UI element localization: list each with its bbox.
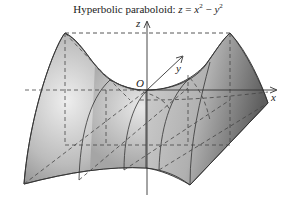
y-axis-label: y	[176, 62, 181, 74]
surface	[24, 33, 268, 185]
saddle-surface-diagram	[0, 0, 296, 207]
x-axis-label: x	[271, 91, 276, 103]
origin-label: O	[136, 77, 144, 89]
z-axis-label: z	[136, 17, 140, 29]
